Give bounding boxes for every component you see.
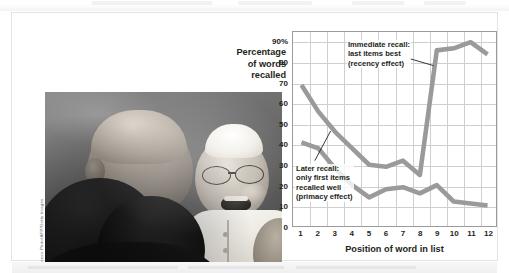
y-axis-tick-label: 60 [279,99,288,108]
page-ghost-text-bottom [12,262,497,273]
x-axis-tick-label: 10 [450,229,459,238]
x-axis-tick-label: 6 [384,229,388,238]
photo-block: Vincenzo Pinto/AFP/Getty Images [33,81,282,271]
leader-line-immediate-recall [410,59,434,66]
x-axis-tick-label: 3 [332,229,336,238]
y-axis-tick-label: 90% [272,37,288,46]
page-ghost-text-top [0,0,509,11]
y-axis-tick-label: 30 [279,161,288,170]
figure-container: Vincenzo Pinto/AFP/Getty Images [11,12,498,261]
x-axis-tick-label: 7 [401,229,405,238]
x-axis-tick-labels: 123456789101112 [292,229,497,242]
y-axis-tick-label: 20 [279,181,288,190]
annotation-line: Immediate recall: [348,40,410,49]
y-axis-tick-labels: 90%80706050403020100 [266,31,290,227]
x-axis-tick-label: 1 [298,229,302,238]
immediate-recall-annotation: Immediate recall:last items best(recency… [347,40,411,68]
plot-area: Immediate recall:last items best(recency… [292,31,497,227]
x-axis-tick-label: 2 [315,229,319,238]
x-axis-tick-label: 12 [484,229,493,238]
y-axis-tick-label: 70 [279,78,288,87]
y-axis-tick-label: 50 [279,119,288,128]
serial-position-chart: Percentageof wordsrecalled 90%8070605040… [290,31,508,271]
photo-credit: Vincenzo Pinto/AFP/Getty Images [33,81,44,271]
later-recall-annotation: Later recall:only first itemsrecalled we… [295,164,354,202]
annotation-line: (recency effect) [348,59,410,68]
annotation-line: recalled well [296,183,353,192]
y-axis-tick-label: 80 [279,57,288,66]
x-axis-tick-label: 5 [367,229,371,238]
annotation-line: last items best [348,49,410,58]
x-axis-tick-label: 11 [467,229,475,238]
x-axis-tick-label: 9 [435,229,439,238]
x-axis-tick-label: 4 [350,229,354,238]
annotation-line: (primacy effect) [296,192,353,201]
y-axis-tick-label: 10 [279,202,288,211]
photograph [45,92,282,271]
x-axis-tick-label: 8 [418,229,422,238]
x-axis-title: Position of word in list [292,244,497,254]
photo-vignette [45,92,282,271]
y-axis-tick-label: 40 [279,140,288,149]
y-axis-tick-label: 0 [284,223,288,232]
annotation-line: only first items [296,173,353,182]
annotation-line: Later recall: [296,164,353,173]
